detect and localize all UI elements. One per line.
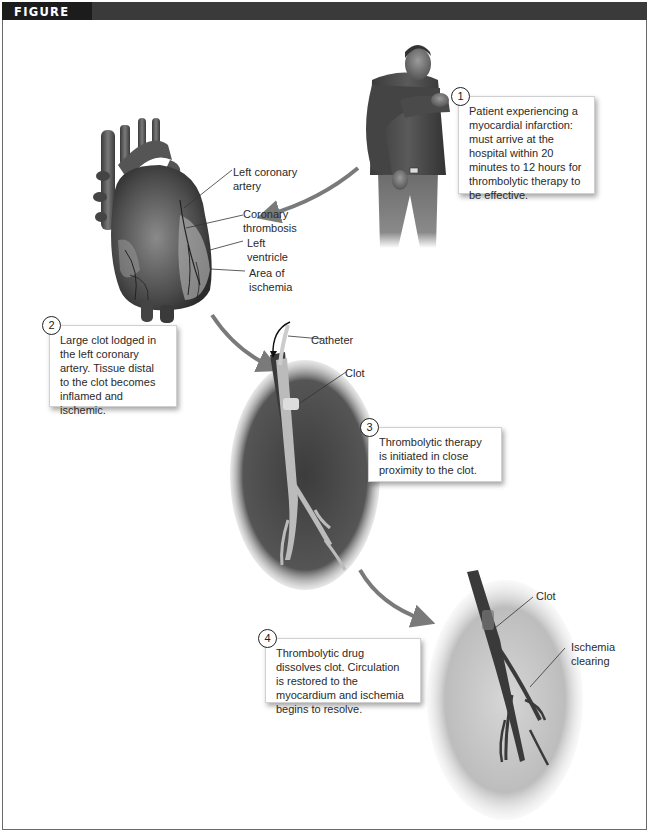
label-catheter: Catheter xyxy=(311,333,353,347)
patient-illustration xyxy=(366,45,450,248)
step-3-text: Thrombolytic therapy is initiated in clo… xyxy=(379,436,482,476)
step-2-text: Large clot lodged in the left coronary a… xyxy=(60,334,156,416)
step-2-callout: Large clot lodged in the left coronary a… xyxy=(49,325,177,407)
label-left-coronary-artery: Left coronary artery xyxy=(233,165,297,193)
label-left-ventricle: Left ventricle xyxy=(247,236,288,264)
step-3-callout: Thrombolytic therapy is initiated in clo… xyxy=(368,427,502,482)
label-area-of-ischemia: Area of ischemia xyxy=(249,266,292,294)
heart-illustration xyxy=(93,118,245,323)
label-ischemia-clearing: Ischemia clearing xyxy=(571,640,615,668)
catheter-tissue-illustration xyxy=(230,322,380,590)
label-clot-panel3: Clot xyxy=(345,366,365,380)
step-1-text: Patient experiencing a myocardial infarc… xyxy=(469,105,582,201)
step-2-number: 2 xyxy=(42,316,61,335)
label-coronary-thrombosis: Coronary thrombosis xyxy=(243,207,297,235)
step-3-number: 3 xyxy=(360,418,379,437)
step-1-callout: Patient experiencing a myocardial infarc… xyxy=(458,96,595,194)
arrow-catheter-to-resolution xyxy=(360,570,424,620)
step-1-number: 1 xyxy=(451,87,470,106)
resolution-tissue-illustration xyxy=(427,570,583,820)
arrow-heart-to-catheter xyxy=(212,315,270,366)
step-4-number: 4 xyxy=(258,629,277,648)
step-4-callout: Thrombolytic drug dissolves clot. Circul… xyxy=(265,638,421,703)
label-clot-panel4: Clot xyxy=(536,589,556,603)
